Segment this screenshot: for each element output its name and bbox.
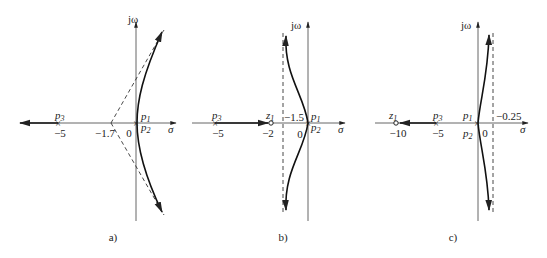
caption-a: a) [109, 231, 118, 244]
pole-p12-marker: × [133, 118, 139, 129]
jw-label: jω [290, 19, 301, 31]
z1-label: z1 [388, 109, 397, 123]
tick-minus-1.7: −1.7 [95, 127, 115, 139]
sigma-label: σ [520, 123, 526, 135]
panel-b: × × jω σ p3 z1 −1.5 p1 p2 −5 −2 0 b) [192, 19, 345, 244]
pole-p12-marker: × [474, 118, 480, 129]
p3-label: p3 [211, 109, 222, 123]
tick-minus-5: −5 [432, 127, 444, 139]
locus-upper-branch [478, 35, 489, 123]
tick-minus-0.25: −0.25 [496, 110, 522, 122]
z1-label: z1 [265, 109, 274, 123]
tick-zero: 0 [126, 127, 132, 139]
pole-p12-marker: × [305, 118, 311, 129]
p3-label: p3 [432, 109, 443, 123]
p3-label: p3 [54, 109, 65, 123]
caption-b: b) [278, 231, 288, 244]
jw-label: jω [460, 19, 471, 31]
panel-a: × × jω σ p3 p1 p2 −5 −1.7 0 a) [20, 13, 176, 244]
jw-label: jω [127, 13, 138, 25]
tick-zero: 0 [297, 128, 303, 140]
tick-minus-2: −2 [262, 127, 274, 139]
caption-c: c) [449, 231, 458, 244]
p1-label: p1 [462, 109, 473, 123]
tick-minus-5: −5 [212, 127, 224, 139]
root-locus-figure: × × jω σ p3 p1 p2 −5 −1.7 0 a) × × jω σ … [0, 0, 547, 258]
panel-c: × × jω σ z1 p3 p1 −0.25 p2 −10 −5 0 c) [375, 19, 528, 244]
tick-zero: 0 [482, 127, 488, 139]
p2-label: p2 [462, 127, 473, 141]
tick-minus-10: −10 [389, 127, 407, 139]
sigma-label: σ [338, 123, 344, 135]
tick-minus-5: −5 [54, 127, 66, 139]
tick-minus-1.5: −1.5 [284, 111, 304, 123]
locus-lower-branch [137, 123, 162, 212]
sigma-label: σ [168, 123, 174, 135]
locus-upper-branch [286, 36, 308, 123]
